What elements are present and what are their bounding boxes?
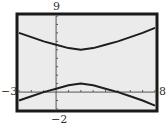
- screen-frame: [17, 14, 157, 111]
- ymax-label: 9: [53, 1, 60, 12]
- ymin-label: −2: [51, 114, 67, 125]
- xmax-label: 8: [159, 86, 166, 97]
- xmin-label: −3: [1, 86, 17, 97]
- calculator-graph-screen: [0, 0, 166, 129]
